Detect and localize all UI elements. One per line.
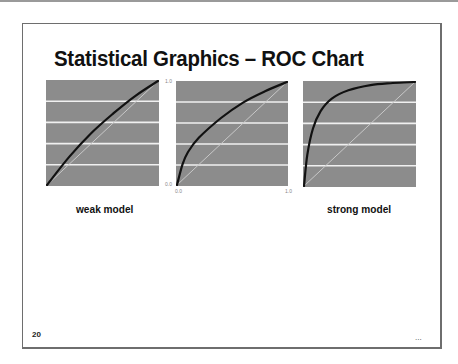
roc-plot-medium: [176, 81, 288, 186]
weak-model-label: weak model: [76, 203, 133, 215]
slide-title: Statistical Graphics – ROC Chart: [54, 46, 363, 72]
roc-plot-strong: [303, 81, 416, 187]
x-axis-right-label: 1.0: [285, 188, 292, 194]
strong-model-label: strong model: [327, 203, 391, 215]
more-ellipsis: ...: [415, 333, 422, 342]
roc-chart-weak: [46, 80, 159, 186]
x-axis-left-label: 0.0: [175, 188, 182, 194]
top-rule: [0, 0, 458, 2]
y-axis-bottom-label: 0.0: [165, 181, 172, 187]
page-number: 20: [32, 330, 41, 339]
roc-chart-medium: [176, 81, 288, 186]
y-axis-top-label: 1.0: [165, 78, 172, 84]
roc-chart-strong: [303, 81, 416, 187]
roc-plot-weak: [46, 80, 159, 186]
